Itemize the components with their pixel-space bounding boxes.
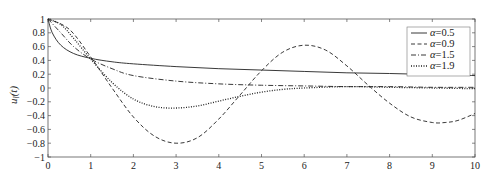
y-tick-label: 0.2 xyxy=(33,69,46,80)
legend-label: α=1.5 xyxy=(430,49,455,60)
legend: α=0.5α=0.9α=1.5α=1.9 xyxy=(407,27,470,76)
legend-label: α=0.5 xyxy=(430,27,455,38)
x-tick-label: 4 xyxy=(216,160,221,171)
x-tick-label: 2 xyxy=(131,160,136,171)
legend-label: α=1.9 xyxy=(430,60,455,71)
y-tick-label: 1 xyxy=(40,14,45,25)
y-tick-label: 0.8 xyxy=(33,27,46,38)
y-tick-label: −1 xyxy=(34,152,45,163)
y-tick-label: −0.8 xyxy=(27,138,45,149)
x-tick-label: 1 xyxy=(88,160,93,171)
line-chart: 01234567891010.80.60.40.20−0.2−0.4−0.6−0… xyxy=(0,0,491,180)
y-tick-label: −0.2 xyxy=(27,96,45,107)
y-tick-label: −0.4 xyxy=(27,110,45,121)
x-tick-label: 8 xyxy=(387,160,392,171)
x-tick-label: 7 xyxy=(344,160,349,171)
y-axis-label: ul(t) xyxy=(7,86,21,104)
x-tick-label: 0 xyxy=(46,160,51,171)
legend-label: α=0.9 xyxy=(430,38,455,49)
x-tick-label: 6 xyxy=(302,160,307,171)
x-tick-label: 3 xyxy=(174,160,179,171)
x-tick-label: 10 xyxy=(470,160,480,171)
y-tick-label: 0.6 xyxy=(33,41,46,52)
x-tick-label: 5 xyxy=(259,160,264,171)
y-tick-label: 0.4 xyxy=(33,55,46,66)
y-tick-label: −0.6 xyxy=(27,124,45,135)
y-tick-label: 0 xyxy=(40,83,45,94)
x-tick-label: 9 xyxy=(430,160,435,171)
